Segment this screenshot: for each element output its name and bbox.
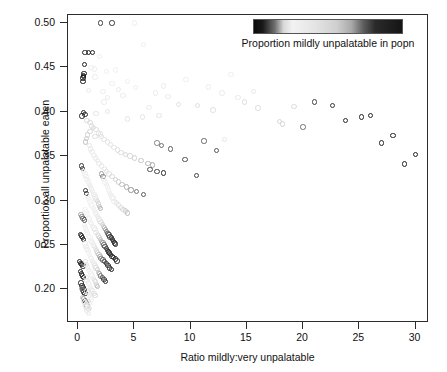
data-point: [183, 77, 188, 82]
y-axis-tick: [60, 22, 67, 23]
data-point: [176, 102, 181, 107]
data-point: [95, 284, 100, 289]
data-point: [390, 133, 395, 138]
x-axis-tick-label: 5: [113, 332, 153, 343]
y-axis-tick: [60, 288, 67, 289]
y-axis-title: Proportion all unpalatable eaten: [39, 49, 51, 299]
colorbar-legend: Proportion mildly unpalatable in popn: [253, 19, 403, 49]
data-point: [161, 83, 166, 88]
data-point: [251, 89, 256, 94]
data-point: [125, 116, 130, 121]
y-axis-tick: [60, 244, 67, 245]
data-point: [141, 42, 146, 47]
data-point: [93, 111, 98, 116]
data-point: [92, 66, 97, 71]
x-axis-tick: [246, 322, 247, 329]
x-axis-tick: [302, 322, 303, 329]
data-point: [219, 90, 224, 95]
x-axis-tick: [133, 322, 134, 329]
data-point: [132, 155, 137, 160]
data-point: [109, 267, 114, 272]
y-axis-tick-label: 0.35: [15, 150, 55, 160]
data-point: [359, 114, 364, 119]
data-point: [80, 79, 85, 84]
data-point: [113, 241, 118, 246]
y-axis-tick: [60, 200, 67, 201]
data-point: [280, 121, 285, 126]
x-axis-tick-label: 20: [282, 332, 322, 343]
x-axis-tick-label: 25: [338, 332, 378, 343]
data-point: [168, 146, 173, 151]
data-point: [156, 113, 161, 118]
y-axis-tick: [60, 66, 67, 67]
y-axis-tick-label: 0.25: [15, 239, 55, 249]
data-point: [98, 20, 103, 25]
data-point: [98, 206, 103, 211]
data-point: [242, 99, 247, 104]
data-point: [105, 95, 110, 100]
y-axis-tick-label: 0.45: [15, 61, 55, 71]
data-point: [255, 105, 260, 110]
y-axis-tick-label: 0.30: [15, 195, 55, 205]
data-point: [141, 192, 146, 197]
data-point: [109, 20, 114, 25]
data-point: [105, 109, 110, 114]
data-point: [343, 118, 348, 123]
data-point: [116, 87, 121, 92]
x-axis-title: Ratio mildly:very unpalatable: [67, 351, 428, 363]
data-point: [402, 161, 407, 166]
data-point: [182, 157, 187, 162]
data-point: [125, 210, 130, 215]
data-point: [104, 69, 109, 74]
data-point: [97, 54, 102, 59]
data-point: [195, 103, 200, 108]
data-point: [159, 143, 164, 148]
data-point: [312, 99, 317, 104]
x-axis-tick-label: 15: [226, 332, 266, 343]
data-point: [201, 138, 206, 143]
data-point: [100, 89, 105, 94]
x-axis-tick-label: 0: [57, 332, 97, 343]
data-point: [82, 62, 87, 67]
data-point: [109, 81, 114, 86]
y-axis-tick-label: 0.50: [15, 17, 55, 27]
x-axis-tick: [190, 322, 191, 329]
colorbar-label: Proportion mildly unpalatable in popn: [219, 37, 437, 49]
data-point: [206, 84, 211, 89]
data-point: [235, 95, 240, 100]
plot-area: [67, 14, 428, 322]
data-point: [146, 105, 151, 110]
data-point: [140, 114, 145, 119]
data-point: [210, 107, 215, 112]
y-axis-tick-label: 0.40: [15, 106, 55, 116]
x-axis-tick-label: 30: [395, 332, 435, 343]
colorbar-gradient: [253, 19, 403, 34]
data-point: [214, 148, 219, 153]
data-point: [114, 258, 119, 263]
data-point: [133, 85, 138, 90]
data-point: [90, 50, 95, 55]
y-axis-tick-label: 0.20: [15, 283, 55, 293]
data-point: [153, 90, 158, 95]
data-point: [194, 173, 199, 178]
data-point: [228, 72, 233, 77]
data-point: [134, 189, 139, 194]
data-point: [291, 104, 296, 109]
data-point: [86, 311, 91, 316]
data-point: [103, 279, 108, 284]
data-point: [101, 99, 106, 104]
data-point: [330, 103, 335, 108]
data-point: [154, 169, 159, 174]
data-point: [161, 170, 166, 175]
x-axis-tick: [358, 322, 359, 329]
data-point: [132, 20, 137, 25]
data-points-layer: [68, 15, 427, 321]
data-point: [379, 140, 384, 145]
data-point: [222, 137, 227, 142]
data-point: [120, 93, 125, 98]
data-point: [413, 152, 418, 157]
x-axis-tick: [415, 322, 416, 329]
data-point: [165, 94, 170, 99]
data-point: [128, 187, 133, 192]
data-point: [86, 88, 91, 93]
